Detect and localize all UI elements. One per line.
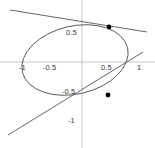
x-tick-label-neg0point5: -0.5 (43, 64, 56, 72)
tangency-point-upper (107, 25, 112, 30)
y-tick-label-neg0point5: -0.5 (62, 88, 75, 96)
x-tick-label-neg1: -1 (19, 64, 26, 72)
x-tick-label-1: 1 (137, 64, 141, 72)
data-group (8, 10, 147, 135)
plot-canvas (0, 0, 155, 148)
tangency-point-lower (106, 93, 111, 98)
plot-figure: -1 -0.5 0.5 1 0.5 -0.5 -1 (0, 0, 155, 148)
tangent-line-lower (8, 52, 143, 135)
tangent-line-upper (10, 10, 147, 32)
x-tick-label-0point5: 0.5 (101, 64, 112, 72)
y-tick-label-0point5: 0.5 (66, 29, 77, 37)
y-tick-label-neg1: -1 (68, 117, 75, 125)
